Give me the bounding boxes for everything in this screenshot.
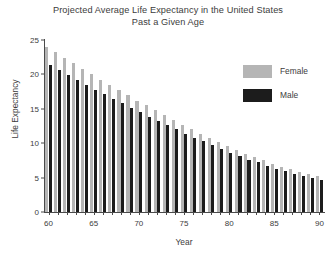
x-axis-tick-mark bbox=[94, 212, 95, 215]
bar-male bbox=[238, 156, 241, 212]
bar-group bbox=[172, 40, 179, 212]
x-axis-tick-mark bbox=[175, 212, 176, 215]
bar-group bbox=[81, 40, 88, 212]
bar-male bbox=[103, 94, 106, 212]
bar-group bbox=[316, 40, 323, 212]
x-axis-tick-mark bbox=[166, 212, 167, 215]
bar-male bbox=[67, 75, 70, 212]
x-axis-tick-mark bbox=[319, 212, 320, 215]
bar-male bbox=[193, 138, 196, 212]
bar-group bbox=[135, 40, 142, 212]
bar-male bbox=[139, 112, 142, 212]
x-axis-tick-mark bbox=[76, 212, 77, 215]
bar-group bbox=[190, 40, 197, 212]
x-axis-tick-mark bbox=[139, 212, 140, 215]
x-axis-tick-mark bbox=[121, 212, 122, 215]
bar-male bbox=[121, 103, 124, 212]
x-axis-tick-mark bbox=[265, 212, 266, 215]
bar-group bbox=[235, 40, 242, 212]
bar-group bbox=[72, 40, 79, 212]
bar-group bbox=[90, 40, 97, 212]
x-axis-tick-mark bbox=[85, 212, 86, 215]
chart-title-line-2: Past a Given Age bbox=[0, 16, 336, 28]
bar-male bbox=[94, 90, 97, 212]
x-axis-tick-mark bbox=[130, 212, 131, 215]
x-axis-tick-mark bbox=[193, 212, 194, 215]
bar-male bbox=[130, 108, 133, 212]
chart-figure: Projected Average Life Expectancy in the… bbox=[0, 0, 336, 266]
x-axis-tick-mark bbox=[292, 212, 293, 215]
bar-male bbox=[76, 80, 79, 212]
x-axis-tick-mark bbox=[301, 212, 302, 215]
bar-male bbox=[229, 153, 232, 212]
bar-group bbox=[145, 40, 152, 212]
chart-legend: Female Male bbox=[243, 63, 308, 111]
bar-group bbox=[217, 40, 224, 212]
x-axis-tick-mark bbox=[49, 212, 50, 215]
bar-male bbox=[293, 174, 296, 212]
legend-entry-male: Male bbox=[243, 87, 308, 103]
x-axis-tick-mark bbox=[103, 212, 104, 215]
bar-male bbox=[112, 99, 115, 212]
x-axis-label: Year bbox=[44, 237, 324, 247]
bar-male bbox=[202, 141, 205, 212]
bar-group bbox=[181, 40, 188, 212]
x-axis-tick-mark bbox=[184, 212, 185, 215]
bar-male bbox=[157, 121, 160, 212]
bar-group bbox=[208, 40, 215, 212]
x-axis-tick-mark bbox=[58, 212, 59, 215]
x-axis-tick-mark bbox=[229, 212, 230, 215]
bar-male bbox=[320, 180, 323, 212]
x-axis-tick-mark bbox=[310, 212, 311, 215]
bar-male bbox=[58, 70, 61, 212]
bar-group bbox=[199, 40, 206, 212]
x-axis-tick-mark bbox=[283, 212, 284, 215]
bar-male bbox=[284, 171, 287, 212]
y-axis-label: Life Expectancy bbox=[10, 49, 20, 169]
bar-male bbox=[184, 134, 187, 212]
legend-swatch-male-icon bbox=[243, 89, 272, 102]
x-axis-tick-mark bbox=[112, 212, 113, 215]
x-axis-tick-mark bbox=[247, 212, 248, 215]
bar-male bbox=[247, 160, 250, 212]
x-axis-tick-mark bbox=[148, 212, 149, 215]
x-axis-tick-mark bbox=[220, 212, 221, 215]
chart-title-line-1: Projected Average Life Expectancy in the… bbox=[0, 4, 336, 16]
bar-male bbox=[175, 129, 178, 212]
y-axis-tick-mark bbox=[41, 74, 44, 75]
bar-male bbox=[148, 117, 151, 212]
x-axis-tick-mark bbox=[202, 212, 203, 215]
x-axis-tick-mark bbox=[211, 212, 212, 215]
bar-group bbox=[117, 40, 124, 212]
x-axis-tick-mark bbox=[238, 212, 239, 215]
bar-male bbox=[211, 145, 214, 212]
y-axis-tick-mark bbox=[41, 40, 44, 41]
bar-group bbox=[99, 40, 106, 212]
bar-male bbox=[311, 178, 314, 212]
chart-title: Projected Average Life Expectancy in the… bbox=[0, 4, 336, 28]
bar-male bbox=[266, 166, 269, 212]
bar-male bbox=[85, 85, 88, 212]
legend-swatch-female-icon bbox=[243, 65, 272, 78]
bar-group bbox=[307, 40, 314, 212]
bar-group bbox=[154, 40, 161, 212]
bar-group bbox=[226, 40, 233, 212]
legend-entry-female: Female bbox=[243, 63, 308, 79]
bar-male bbox=[49, 65, 52, 212]
bar-group bbox=[163, 40, 170, 212]
bar-male bbox=[220, 149, 223, 212]
bar-male bbox=[257, 162, 260, 212]
y-axis-tick-mark bbox=[41, 177, 44, 178]
bar-male bbox=[302, 176, 305, 212]
x-axis-tick-mark bbox=[157, 212, 158, 215]
bar-group bbox=[63, 40, 70, 212]
y-axis-tick-mark bbox=[41, 108, 44, 109]
legend-label-female: Female bbox=[280, 66, 308, 76]
bar-group bbox=[126, 40, 133, 212]
x-axis-tick-mark bbox=[67, 212, 68, 215]
bar-group bbox=[108, 40, 115, 212]
bar-male bbox=[275, 169, 278, 212]
x-axis-tick-mark bbox=[274, 212, 275, 215]
bar-male bbox=[166, 125, 169, 212]
y-axis-tick-mark bbox=[41, 143, 44, 144]
